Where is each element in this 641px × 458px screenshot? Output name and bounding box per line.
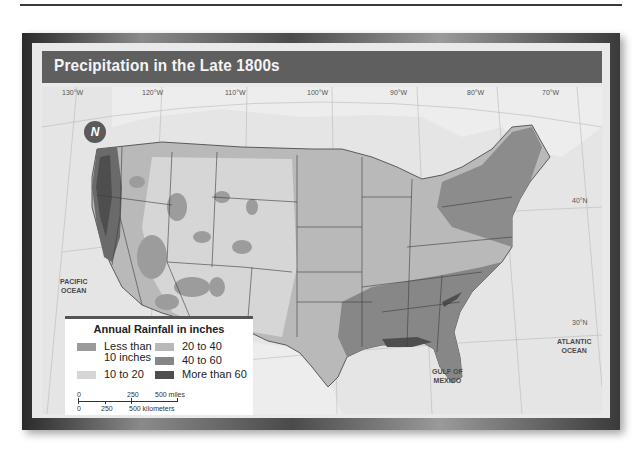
legend-label-line2: 10 inches [104,352,152,363]
atlantic-ocean-label: ATLANTIC OCEAN [557,337,591,355]
atlantic-ocean-label-line2: OCEAN [557,346,591,355]
pacific-ocean-label: PACIFIC OCEAN [60,277,87,295]
longitude-label-130w: 130°W [62,89,83,96]
compass-north-letter: N [91,125,100,139]
legend-item-40-to-60: 40 to 60 [155,355,222,366]
longitude-label-100w: 100°W [307,89,328,96]
longitude-label-90w: 90°W [390,89,407,96]
map-title: Precipitation in the Late 1800s [54,56,280,76]
legend-label-less-than-10: Less than 10 inches [104,341,152,363]
legend-item-more-than-60: More than 60 [155,369,247,380]
scale-tick [105,401,106,404]
legend-item-less-than-10: Less than 10 inches [77,341,152,363]
legend-label-10-to-20: 10 to 20 [104,369,144,380]
gulf-of-mexico-label-line1: GULF OF [432,367,463,376]
legend-swatch-20-to-40 [155,343,174,351]
pacific-ocean-label-line1: PACIFIC [60,277,87,286]
scale-tick [78,398,79,404]
legend-swatch-40-to-60 [155,357,174,365]
latitude-label-40n: 40°N [572,197,588,204]
legend-label-more-than-60: More than 60 [182,369,247,380]
scale-km-500: 500 kilometers [129,405,175,412]
legend-label-20-to-40: 20 to 40 [182,341,222,352]
legend-label-40-to-60: 40 to 60 [182,355,222,366]
scale-miles-0: 0 [77,391,81,398]
page-top-rule [20,4,622,6]
scale-km-0: 0 [77,405,81,412]
compass-rose-icon: N [84,121,106,143]
scale-miles-500: 500 miles [155,391,185,398]
scale-line [78,401,178,402]
longitude-label-70w: 70°W [542,89,559,96]
longitude-label-120w: 120°W [142,89,163,96]
longitude-label-80w: 80°W [467,89,484,96]
legend-swatch-10-to-20 [77,371,96,379]
legend-item-10-to-20: 10 to 20 [77,369,144,380]
scale-tick [177,398,178,402]
title-bar: Precipitation in the Late 1800s [42,51,602,83]
pacific-ocean-label-line2: OCEAN [60,286,87,295]
scale-km-250: 250 [101,405,113,412]
scale-bar: 0 250 500 miles 0 250 500 kilometers [77,391,207,413]
legend-swatch-less-than-10 [77,343,96,351]
scale-miles-250: 250 [127,391,139,398]
legend-item-20-to-40: 20 to 40 [155,341,222,352]
longitude-label-110w: 110°W [225,89,246,96]
legend-swatch-more-than-60 [155,371,174,379]
gulf-of-mexico-label-line2: MEXICO [432,376,463,385]
atlantic-ocean-label-line1: ATLANTIC [557,337,591,346]
gulf-of-mexico-label: GULF OF MEXICO [432,367,463,385]
scale-tick [131,398,132,404]
legend-box: Annual Rainfall in inches Less than 10 i… [65,316,253,415]
legend-title: Annual Rainfall in inches [65,323,253,335]
latitude-label-30n: 30°N [572,319,588,326]
